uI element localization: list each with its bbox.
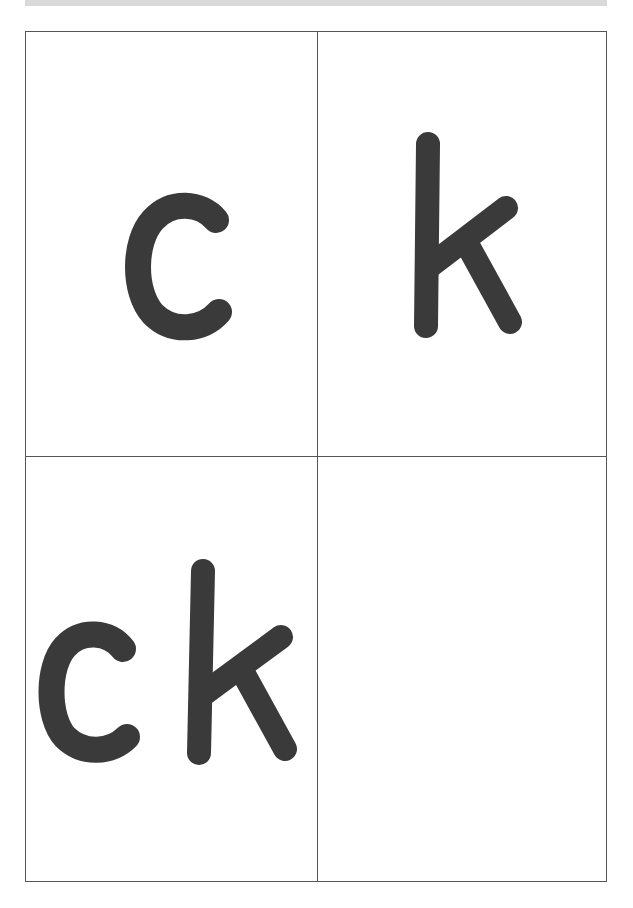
flashcard-grid: c k ck <box>25 31 607 882</box>
card-k: k <box>318 32 606 457</box>
letter-c-glyph <box>121 192 236 342</box>
card-ck: ck <box>26 457 318 881</box>
card-blank <box>318 457 606 881</box>
card-k-text: k <box>318 32 319 33</box>
card-ck-text: ck <box>26 457 27 458</box>
letter-k-glyph <box>398 130 528 340</box>
card-c: c <box>26 32 318 457</box>
card-c-text: c <box>26 32 27 33</box>
header-band <box>25 0 607 6</box>
letter-ck-glyph <box>31 557 306 772</box>
